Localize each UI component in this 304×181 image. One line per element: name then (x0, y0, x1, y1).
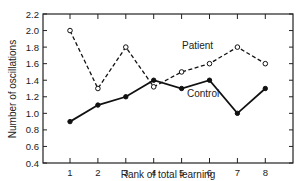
y-tick-label: 2.0 (26, 25, 39, 36)
line-chart: 0.40.60.81.01.21.41.61.82.02.2 12345678 … (0, 0, 304, 181)
data-point-patient (235, 45, 240, 50)
x-axis-ticks: 12345678 (67, 14, 268, 178)
x-tick-label: 8 (263, 167, 268, 178)
data-point-patient (96, 86, 101, 91)
data-point-patient (179, 70, 184, 75)
y-tick-label: 1.2 (26, 91, 39, 102)
x-tick-label: 7 (235, 167, 240, 178)
y-tick-label: 0.4 (26, 158, 39, 169)
x-tick-label: 1 (67, 167, 72, 178)
data-point-patient (124, 45, 129, 50)
data-point-control (96, 103, 100, 107)
data-point-control (124, 95, 128, 99)
data-point-patient (68, 28, 73, 33)
x-tick-label: 2 (95, 167, 100, 178)
data-series (68, 28, 268, 124)
plot-frame (43, 14, 293, 163)
data-point-patient (151, 85, 156, 90)
y-tick-label: 1.6 (26, 58, 39, 69)
data-point-control (68, 119, 72, 123)
data-point-control (235, 111, 239, 115)
y-tick-label: 2.2 (26, 9, 39, 20)
data-point-patient (263, 61, 268, 66)
series-label-control: Control (187, 88, 219, 99)
y-tick-label: 1.4 (26, 75, 39, 86)
data-point-control (179, 86, 183, 90)
data-point-control (152, 78, 156, 82)
y-tick-label: 0.6 (26, 141, 39, 152)
data-point-control (207, 78, 211, 82)
series-label-patient: Patient (182, 40, 213, 51)
y-axis-title: Number of oscillations (7, 40, 18, 138)
y-tick-label: 1.8 (26, 42, 39, 53)
series-line-patient (70, 31, 265, 89)
x-axis-title: Rank of total learning (121, 169, 216, 180)
y-tick-label: 0.8 (26, 124, 39, 135)
data-point-control (263, 86, 267, 90)
y-axis-ticks: 0.40.60.81.01.21.41.61.82.02.2 (26, 9, 293, 169)
y-tick-label: 1.0 (26, 108, 39, 119)
data-point-patient (207, 61, 212, 66)
